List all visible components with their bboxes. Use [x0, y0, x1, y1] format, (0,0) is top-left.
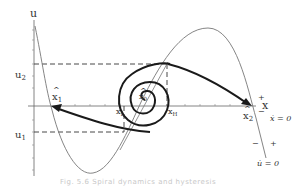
u-dot-minus-sign: − — [252, 140, 259, 148]
u-dot-nullcline-label: u̇ = 0 — [257, 160, 279, 168]
x-axis — [28, 104, 256, 106]
u1-label: u1 — [15, 130, 26, 142]
trajectory-to-x-hat-2 — [168, 64, 248, 104]
u2-label: u2 — [15, 70, 26, 82]
x-dot-nullcline-curve — [35, 26, 266, 173]
x-H-label: xH — [168, 108, 177, 118]
u-dot-plus-sign: + — [270, 140, 277, 148]
y-axis-label: u — [30, 8, 37, 19]
x-dot-minus-sign: − — [258, 108, 265, 116]
figure-caption: Fig. 5.6 Spiral dynamics and hysteresis — [60, 178, 260, 186]
x-hat-2-label: x2 — [243, 111, 253, 123]
x-L-label: xL — [116, 108, 124, 118]
x-hat-0-label: x0 — [139, 93, 147, 103]
x-dot-plus-sign: + — [258, 94, 265, 102]
y-axis — [32, 20, 34, 176]
phase-diagram — [0, 0, 300, 189]
x-hat-1-label: x1 — [52, 92, 62, 104]
x-dot-nullcline-label: ẋ = 0 — [270, 115, 291, 123]
